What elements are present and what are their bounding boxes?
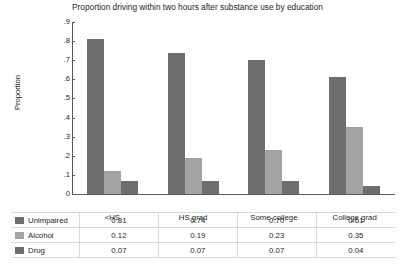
table-cell: 0.35 [316,228,395,243]
y-tick-mark [72,194,75,195]
y-tick-label: .3 [52,133,70,141]
legend-swatch-icon [15,247,24,254]
bar [265,150,282,194]
y-tick-label: .4 [52,114,70,122]
bars-layer [72,22,395,194]
data-table: Unimpaired0.810.740.700.61Alcohol0.120.1… [11,212,395,258]
table-cell: 0.07 [80,243,159,258]
bar-group [329,22,380,194]
bar-group [248,22,299,194]
table-cell: 0.70 [237,213,316,228]
bar [363,186,380,194]
table-cell: 0.19 [158,228,237,243]
legend-label: Unimpaired [28,216,68,225]
y-tick-label: .6 [52,75,70,83]
y-tick-label: .5 [52,94,70,102]
y-tick-label: 0 [52,190,70,198]
chart-title: Proportion driving within two hours afte… [72,2,402,12]
table-cell: 0.61 [316,213,395,228]
y-tick-label: .8 [52,37,70,45]
legend-entry: Unimpaired [11,213,80,228]
y-tick-label: .7 [52,56,70,64]
bar [202,181,219,194]
legend-swatch-icon [15,217,24,224]
bar [121,181,138,194]
table-row: Alcohol0.120.190.230.35 [11,228,395,243]
table-row: Drug0.070.070.070.04 [11,243,395,258]
legend-label: Drug [28,246,45,255]
legend-entry: Drug [11,243,80,258]
table-cell: 0.04 [316,243,395,258]
legend-label: Alcohol [28,231,54,240]
bar [329,77,346,194]
table-row: Unimpaired0.810.740.700.61 [11,213,395,228]
plot-area: Proportion 0.1.2.3.4.5.6.7.8.9 <HSHS gra… [0,14,404,198]
table-cell: 0.23 [237,228,316,243]
table-cell: 0.74 [158,213,237,228]
bar [282,181,299,194]
table-cell: 0.81 [80,213,159,228]
bar [87,39,104,194]
x-axis-line [72,194,395,195]
bar [104,171,121,194]
y-tick-label: .1 [52,171,70,179]
table-cell: 0.07 [237,243,316,258]
bar [168,53,185,194]
bar [346,127,363,194]
bar-group [168,22,219,194]
table-cell: 0.12 [80,228,159,243]
bar [248,60,265,194]
legend-entry: Alcohol [11,228,80,243]
bar [185,158,202,194]
table-cell: 0.07 [158,243,237,258]
bar-group [87,22,138,194]
legend-swatch-icon [15,232,24,239]
y-tick-label: .2 [52,152,70,160]
y-axis-label: Proportion [13,58,22,128]
y-tick-label: .9 [52,18,70,26]
